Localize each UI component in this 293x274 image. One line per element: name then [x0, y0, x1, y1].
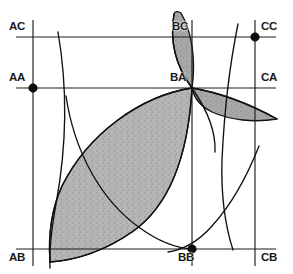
point-label-CC: CC [261, 21, 277, 33]
shaded-lens-group [50, 12, 278, 262]
large-lens-shape [50, 88, 193, 262]
right-vertical-arc [222, 24, 238, 250]
dot-AA [29, 84, 38, 93]
point-label-BC: BC [172, 21, 188, 33]
point-label-AB: AB [9, 252, 25, 264]
right-lens-shape [192, 88, 277, 121]
point-label-BB: BB [178, 252, 194, 264]
dot-CC [251, 33, 260, 42]
point-label-AC: AC [9, 21, 25, 33]
figure-canvas [0, 0, 293, 274]
point-label-CB: CB [261, 252, 277, 264]
point-label-BA: BA [170, 72, 186, 84]
arc-through-BB [168, 146, 259, 252]
point-label-CA: CA [261, 72, 277, 84]
geometric-construction-figure: AC AA AB BC BA BB CC CA CB [0, 0, 293, 274]
point-label-AA: AA [9, 72, 25, 84]
